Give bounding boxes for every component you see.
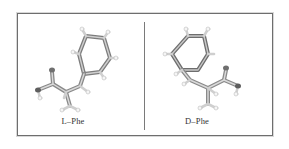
panel-divider (144, 22, 145, 130)
l-phe-bonds (35, 27, 118, 112)
benzene-ring (172, 36, 208, 70)
panel-l-phe: L–Phe (18, 14, 144, 135)
panel-d-phe: D–Phe (146, 14, 272, 135)
l-phe-label: L–Phe (10, 116, 136, 126)
d-phe-bonds (163, 27, 241, 110)
d-phe-label: D–Phe (134, 116, 260, 126)
oxygen-atom (223, 66, 229, 71)
hydroxyl-oxygen (35, 88, 41, 93)
hydroxyl-oxygen (235, 84, 241, 89)
oxygen-atom (49, 68, 55, 73)
